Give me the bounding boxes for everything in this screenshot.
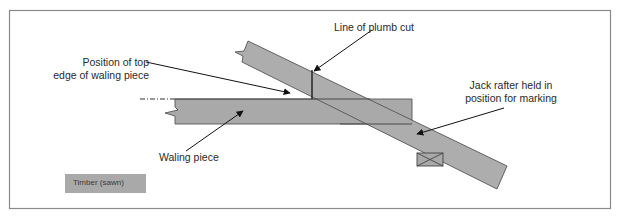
leader-jack-rafter [417, 108, 504, 134]
support-block-icon [417, 153, 443, 166]
label-jack-rafter-line1: Jack rafter held in [461, 79, 561, 92]
legend-label: Timber (sawn) [73, 178, 124, 187]
legend-timber-sawn: Timber (sawn) [65, 174, 146, 193]
label-jack-rafter: Jack rafter held in position for marking [461, 79, 561, 105]
diagram: Position of top edge of waling piece Lin… [0, 0, 617, 218]
label-waling-piece: Waling piece [159, 151, 219, 164]
label-top-edge-line1: Position of top [53, 56, 149, 69]
label-plumb-cut: Line of plumb cut [334, 21, 414, 34]
label-top-edge: Position of top edge of waling piece [53, 56, 149, 82]
label-jack-rafter-line2: position for marking [461, 92, 561, 105]
leader-plumb-cut [314, 30, 372, 71]
label-top-edge-line2: edge of waling piece [53, 69, 149, 82]
